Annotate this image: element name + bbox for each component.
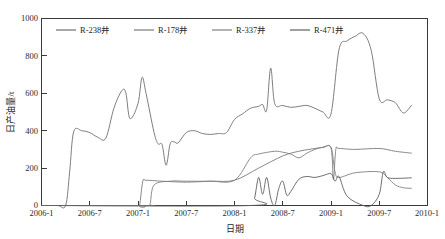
x-tick-label-5: 2008-7: [271, 208, 295, 218]
x-tick-label-1: 2006-7: [78, 208, 102, 218]
plot-frame: [42, 19, 428, 206]
series-line-R-337井: [42, 146, 412, 206]
x-tick-label-6: 2009-1: [319, 208, 343, 218]
x-tick-label-4: 2008-1: [222, 208, 246, 218]
legend-label-R-238井: R-238井: [80, 25, 110, 35]
x-tick-label-0: 2006-1: [29, 208, 53, 218]
legend-label-R-178井: R-178井: [158, 25, 188, 35]
chart-page: 0 200 400 600 800 1000 2006-1 2006-7 200…: [0, 0, 445, 239]
y-tick-label-600: 600: [25, 88, 38, 98]
y-tick-label-200: 200: [25, 163, 38, 173]
x-axis-title: 日期: [226, 224, 244, 234]
series-line-R-178井: [42, 145, 412, 207]
line-chart: 0 200 400 600 800 1000 2006-1 2006-7 200…: [0, 0, 445, 239]
x-axis: 2006-1 2006-7 2007-1 2007-7 2008-1 2008-…: [29, 201, 439, 218]
x-tick-label-7: 2009-7: [367, 208, 391, 218]
y-axis-title: 日产油量/t: [5, 91, 16, 133]
y-tick-label-400: 400: [25, 126, 38, 136]
x-tick-label-3: 2007-7: [174, 208, 198, 218]
y-tick-label-1000: 1000: [21, 13, 38, 23]
series-line-R-471井: [42, 171, 412, 207]
x-tick-label-2: 2007-1: [126, 208, 150, 218]
y-tick-label-800: 800: [25, 51, 38, 61]
x-tick-label-8: 2010-1: [415, 208, 439, 218]
legend-label-R-471井: R-471井: [314, 25, 344, 35]
legend-label-R-337井: R-337井: [236, 25, 266, 35]
chart-legend: R-238井R-178井R-337井R-471井: [56, 25, 344, 35]
y-axis: 0 200 400 600 800 1000: [21, 13, 47, 210]
series-layer: [42, 33, 412, 208]
